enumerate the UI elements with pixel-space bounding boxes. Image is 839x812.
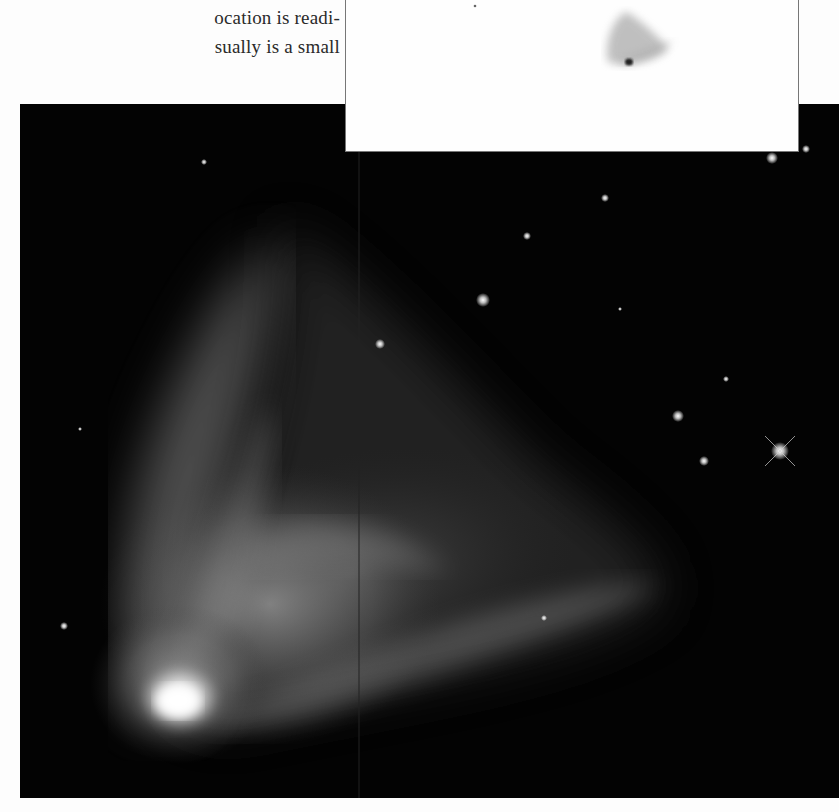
text-line-1: ocation is readi- [0, 3, 340, 32]
inverted-nebula-image [346, 0, 799, 152]
inset-negative-image [345, 0, 799, 152]
nebula-image [20, 104, 839, 798]
text-line-2: sually is a small [0, 32, 340, 61]
nebula-photograph [20, 104, 839, 798]
body-text-fragment: ocation is readi- sually is a small [0, 0, 340, 61]
